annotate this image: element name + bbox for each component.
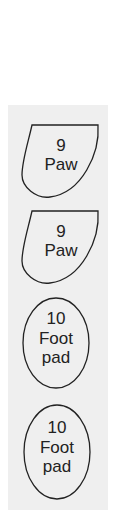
stamp-number: 10	[21, 310, 91, 328]
stamp-name-line-2: pad	[21, 349, 91, 367]
stamp-number: 9	[20, 223, 102, 241]
paw-stamp[interactable]: 9 Paw	[20, 209, 102, 287]
stamp-name-line-1: Foot	[21, 330, 91, 348]
paw-stamp[interactable]: 9 Paw	[20, 123, 102, 201]
stamp-name: Paw	[20, 242, 102, 260]
stamp-name-line-1: Foot	[22, 439, 92, 457]
stamp-name-line-2: pad	[22, 458, 92, 476]
foot-pad-stamp[interactable]: 10 Foot pad	[21, 296, 91, 390]
stamp-number: 10	[22, 419, 92, 437]
stamp-number: 9	[20, 137, 102, 155]
foot-pad-stamp[interactable]: 10 Foot pad	[22, 403, 92, 501]
stamp-name: Paw	[20, 156, 102, 174]
